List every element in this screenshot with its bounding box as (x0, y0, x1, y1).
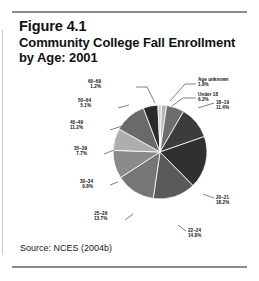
slice-label-20-21-pct: 18.2% (216, 200, 229, 205)
slice-label-60-69: 60–69 1.2% (88, 79, 101, 90)
slice-label-22-24: 22–24 14.8% (188, 228, 201, 239)
slice-label-50-64-pct: 5.1% (78, 103, 91, 108)
slice-label-20-21: 20–21 18.2% (216, 195, 229, 206)
slice-label-40-49-pct: 11.2% (70, 125, 83, 130)
figure-card: Figure 4.1 Community College Fall Enroll… (0, 0, 259, 281)
figure-number: Figure 4.1 (19, 18, 244, 35)
bottom-rule (12, 266, 247, 268)
slice-label-35-39: 35–39 7.7% (74, 146, 87, 157)
slice-label-30-34: 30–34 9.8% (80, 179, 93, 190)
top-rule (12, 11, 247, 13)
slice-label-50-64: 50–64 5.1% (78, 98, 91, 109)
figure-title-line-2: Community College Fall Enrollment (19, 35, 244, 51)
slice-label-25-29: 25–29 13.7% (94, 211, 107, 222)
slice-label-age-unknown: Age unknown 1.8% (198, 77, 229, 88)
slice-label-30-34-name: 30–34 (80, 179, 93, 184)
slice-label-60-69-name: 60–69 (88, 79, 101, 84)
slice-label-20-21-name: 20–21 (216, 195, 229, 200)
slice-label-18-19-pct: 11.4% (216, 105, 229, 110)
slice-label-18-19: 18–19 11.4% (216, 100, 229, 111)
slice-label-18-19-name: 18–19 (216, 100, 229, 105)
slice-label-under-18-name: Under 18 (198, 92, 218, 97)
slice-label-35-39-pct: 7.7% (74, 151, 87, 156)
slice-label-age-unknown-pct: 1.8% (198, 82, 229, 87)
slice-label-age-unknown-name: Age unknown (198, 77, 229, 82)
pie-chart: 60–69 1.2% Age unknown 1.8% Under 18 6.2… (0, 70, 259, 240)
slice-label-40-49: 40–49 11.2% (70, 120, 83, 131)
slice-label-22-24-name: 22–24 (188, 228, 201, 233)
slice-label-25-29-name: 25–29 (94, 211, 107, 216)
slice-label-40-49-name: 40–49 (70, 120, 83, 125)
leader-lines (0, 70, 259, 240)
slice-label-60-69-pct: 1.2% (88, 84, 101, 89)
figure-title-line-3: by Age: 2001 (19, 50, 244, 66)
figure-title-block: Figure 4.1 Community College Fall Enroll… (19, 18, 244, 66)
slice-label-25-29-pct: 13.7% (94, 216, 107, 221)
slice-label-22-24-pct: 14.8% (188, 233, 201, 238)
slice-label-35-39-name: 35–39 (74, 146, 87, 151)
source-note: Source: NCES (2004b) (20, 243, 112, 253)
slice-label-30-34-pct: 9.8% (80, 184, 93, 189)
slice-label-50-64-name: 50–64 (78, 98, 91, 103)
